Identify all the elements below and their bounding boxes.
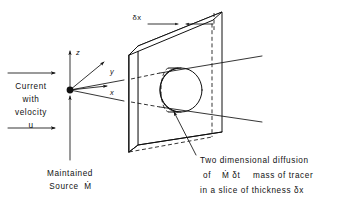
cone-upper-inner — [70, 80, 124, 90]
axis-y-arrow-icon — [70, 62, 104, 90]
current-label-line4: u — [28, 121, 33, 130]
source-label-line2-group: Source Ṁ — [49, 181, 91, 191]
diagram-canvas: Current with velocity u — [0, 0, 338, 209]
slab-edge-panel — [129, 46, 138, 152]
cone-lower-inner — [70, 90, 124, 101]
source-label-line2: Source — [49, 182, 79, 191]
axis-x-label: x — [109, 88, 114, 97]
source-label-line1: Maintained — [47, 169, 93, 178]
slab-front-face — [129, 46, 138, 152]
axis-y-label: y — [109, 67, 115, 76]
current-label-line3: velocity — [15, 108, 47, 117]
axis-z-label: z — [75, 48, 80, 57]
thickness-dimension-label: δx — [132, 13, 141, 22]
caption-line2-group: of Ṁ δt mass of tracer — [203, 170, 313, 180]
current-label-line1: Current — [15, 82, 47, 91]
current-label-line2: with — [22, 95, 40, 104]
filled-dot-icon — [67, 87, 74, 94]
axes-group: z y x — [67, 48, 115, 97]
caption-line2-suffix: mass of tracer — [253, 171, 313, 180]
source-symbol-label: Ṁ — [84, 181, 91, 191]
caption-line2-symbol: Ṁ δt — [222, 170, 240, 180]
diffusion-diagram: Current with velocity u — [0, 0, 338, 209]
caption-line3: in a slice of thickness δx — [200, 186, 304, 195]
caption-line1: Two dimensional diffusion — [200, 156, 309, 165]
caption-line2-prefix: of — [203, 171, 211, 180]
